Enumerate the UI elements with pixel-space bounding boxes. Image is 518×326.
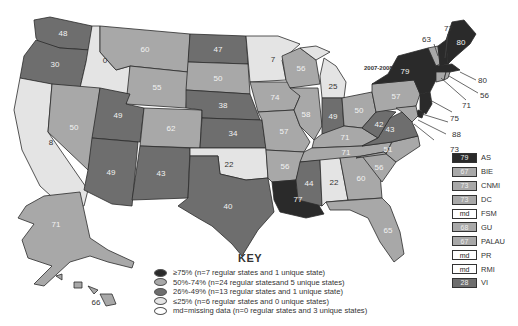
territory-name: PALAU <box>481 237 505 246</box>
legend-item-low: ≤25% (n=6 regular states and 0 unique st… <box>154 297 367 307</box>
state-value-NY: 79 <box>401 67 410 76</box>
territory-row: 73DC <box>452 193 505 207</box>
state-value-MO: 57 <box>280 127 289 136</box>
state-value-KS: 34 <box>229 129 238 138</box>
state-value-WI: 56 <box>297 64 306 73</box>
state-value-TN: 71 <box>342 148 351 157</box>
state-value-NV: 50 <box>70 123 79 132</box>
state-value-SD: 50 <box>214 74 223 83</box>
state-value-ID: 0 <box>103 56 108 65</box>
territory-row: mdRMI <box>452 262 505 276</box>
swatch-mid-high-icon <box>154 278 167 286</box>
territory-name: GU <box>481 223 492 232</box>
state-value-LA: 77 <box>294 195 303 204</box>
state-value-WY: 55 <box>153 83 162 92</box>
territory-name: AS <box>481 153 491 162</box>
territory-value: 68 <box>452 222 477 232</box>
swatch-high-icon <box>154 269 167 277</box>
state-value-CA: 8 <box>49 138 54 147</box>
territory-row: 73CNMI <box>452 179 505 193</box>
territory-row: 28VI <box>452 276 505 290</box>
state-value-AZ: 49 <box>107 168 116 177</box>
callout-VT: 63 <box>422 35 431 44</box>
territory-name: CNMI <box>481 181 500 190</box>
territory-name: PR <box>481 251 491 260</box>
territory-row: mdPR <box>452 248 505 262</box>
territory-row: 68GU <box>452 220 505 234</box>
state-value-OR: 30 <box>51 60 60 69</box>
territory-value: 73 <box>452 195 477 205</box>
state-value-WA: 48 <box>59 29 68 38</box>
state-AK <box>18 192 134 286</box>
legend-item-missing: md=missing data (n=0 regular states and … <box>154 306 367 316</box>
territory-name: RMI <box>481 265 495 274</box>
territory-value: md <box>452 209 477 219</box>
territory-name: FSM <box>481 209 497 218</box>
state-value-MS: 44 <box>305 179 314 188</box>
state-value-TX: 40 <box>224 202 233 211</box>
legend-item-mid-high: 50%-74% (n=24 regular statesand 5 unique… <box>154 278 367 288</box>
state-value-ND: 47 <box>214 45 223 54</box>
state-value-UT: 49 <box>114 111 123 120</box>
state-value-AL: 22 <box>330 178 339 187</box>
callout-MA: 80 <box>478 76 487 85</box>
callout-DE-88: 88 <box>452 130 461 139</box>
territories-list: 79AS 67BIE 73CNMI 73DC mdFSM 68GU 67PALA… <box>452 151 505 290</box>
state-value-NM: 43 <box>157 169 166 178</box>
state-value-AR: 56 <box>281 162 290 171</box>
state-value-HI: 66 <box>92 298 101 307</box>
legend: ≥75% (n=7 regular states and 1 unique st… <box>154 268 367 316</box>
state-value-OK: 22 <box>225 160 234 169</box>
state-MA <box>436 64 460 72</box>
state-value-SC: 56 <box>375 163 384 172</box>
state-value-NE: 38 <box>219 101 228 110</box>
state-value-IA: 74 <box>271 93 280 102</box>
callout-NH: 77 <box>444 24 453 33</box>
key-title: KEY <box>238 252 262 264</box>
territory-value: 73 <box>452 181 477 191</box>
state-NJ <box>420 92 432 114</box>
state-value-IN: 49 <box>329 112 338 121</box>
territory-value: 67 <box>452 167 477 177</box>
state-value-CO: 62 <box>167 124 176 133</box>
callout-NJ: 75 <box>450 114 459 123</box>
state-value-MN: 7 <box>271 55 276 64</box>
state-HI <box>56 274 116 306</box>
territory-value: 79 <box>452 153 477 163</box>
state-value-WV: 42 <box>375 120 384 129</box>
territory-value: md <box>452 250 477 260</box>
state-value-FL: 65 <box>384 226 393 235</box>
territory-row: 67PALAU <box>452 234 505 248</box>
swatch-mid-low-icon <box>154 288 167 296</box>
legend-item-mid-low: 26%-49% (n=13 regular states and 1 uniqu… <box>154 287 367 297</box>
territory-name: DC <box>481 195 492 204</box>
legend-item-high: ≥75% (n=7 regular states and 1 unique st… <box>154 268 367 278</box>
callout-RI: 56 <box>480 91 489 100</box>
territory-row: mdFSM <box>452 207 505 221</box>
callout-CT: 71 <box>462 101 471 110</box>
territory-row: 79AS <box>452 151 505 165</box>
swatch-missing-icon <box>154 307 167 315</box>
state-value-VA: 43 <box>386 125 395 134</box>
state-value-IL: 58 <box>302 110 311 119</box>
territory-name: BIE <box>481 167 493 176</box>
state-value-PA: 57 <box>392 92 401 101</box>
state-value-NC: 51 <box>384 145 393 154</box>
territory-row: 67BIE <box>452 165 505 179</box>
territory-value: md <box>452 264 477 274</box>
swatch-low-icon <box>154 297 167 305</box>
state-value-AK: 71 <box>52 220 61 229</box>
state-value-KY: 71 <box>341 133 350 142</box>
state-value-OH: 50 <box>355 106 364 115</box>
territory-value: 67 <box>452 236 477 246</box>
period-label: 2007-2008 <box>364 65 393 71</box>
territory-name: VI <box>481 278 488 287</box>
state-value-MT: 60 <box>141 45 150 54</box>
territory-value: 28 <box>452 278 477 288</box>
state-value-ME: 80 <box>457 38 466 47</box>
state-value-GA: 60 <box>357 174 366 183</box>
state-value-MI: 25 <box>329 82 338 91</box>
